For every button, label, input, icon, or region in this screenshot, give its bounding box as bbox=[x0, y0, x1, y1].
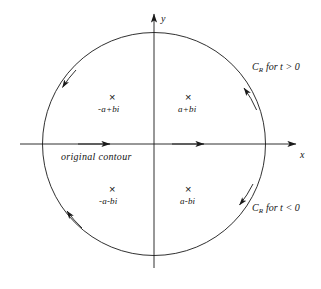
pole-marker-fourth-quadrant: × bbox=[185, 184, 191, 195]
cr-annotation-lower-base: C bbox=[252, 202, 259, 213]
cr-annotation-upper: CRfor t > 0 bbox=[252, 62, 300, 74]
circle-direction-arrow-upper-right bbox=[244, 88, 257, 110]
cr-annotation-upper-condition: for t > 0 bbox=[266, 61, 300, 72]
cr-annotation-lower: CRfor t < 0 bbox=[252, 203, 300, 215]
cr-annotation-lower-condition: for t < 0 bbox=[266, 202, 300, 213]
x-axis-label: x bbox=[300, 150, 304, 160]
pole-label-fourth-quadrant: a-bi bbox=[180, 197, 195, 206]
contour-diagram-canvas bbox=[0, 0, 321, 289]
pole-marker-second-quadrant: × bbox=[109, 92, 115, 103]
circle-direction-arrow-upper-left bbox=[63, 70, 77, 88]
pole-marker-third-quadrant: × bbox=[109, 184, 115, 195]
circle-direction-arrow-lower-right bbox=[240, 184, 254, 205]
original-contour-label: original contour bbox=[61, 152, 132, 162]
y-axis-label: y bbox=[161, 14, 165, 24]
cr-annotation-upper-subscript: R bbox=[259, 66, 263, 74]
circle-direction-arrow-lower-left bbox=[67, 211, 82, 228]
cr-annotation-upper-base: C bbox=[252, 61, 259, 72]
pole-label-first-quadrant: a+bi bbox=[178, 105, 196, 114]
pole-marker-first-quadrant: × bbox=[185, 92, 191, 103]
cr-annotation-lower-subscript: R bbox=[259, 207, 263, 215]
pole-label-third-quadrant: -a-bi bbox=[99, 197, 118, 206]
pole-label-second-quadrant: -a+bi bbox=[98, 105, 120, 114]
